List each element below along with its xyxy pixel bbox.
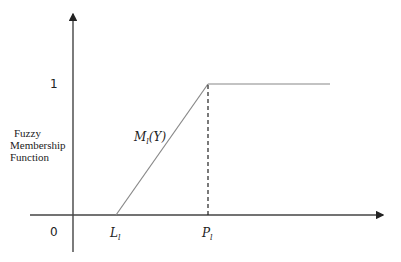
rising-edge bbox=[116, 84, 208, 215]
y-axis-title: Fuzzy Membership Function bbox=[5, 127, 66, 163]
y-axis-title-line-3: Function bbox=[5, 151, 66, 163]
tick-P-sub: l bbox=[210, 233, 213, 242]
curve-label-name: M bbox=[134, 130, 146, 144]
y-axis-title-line-2: Membership bbox=[5, 139, 66, 151]
tick-P-name: P bbox=[202, 226, 210, 240]
y-axis-title-line-1: Fuzzy bbox=[5, 127, 66, 139]
curve-label-arg: (Y) bbox=[149, 130, 166, 144]
origin-label: 0 bbox=[50, 225, 58, 239]
tick-L-sub: l bbox=[118, 233, 121, 242]
membership-function-diagram: 1 0 Fuzzy Membership Function Ll Pl Ml(Y… bbox=[0, 0, 401, 262]
tick-label-L: Ll bbox=[110, 226, 121, 242]
tick-label-one: 1 bbox=[50, 77, 58, 91]
curve-label: Ml(Y) bbox=[134, 130, 166, 146]
tick-L-name: L bbox=[110, 226, 118, 240]
tick-label-P: Pl bbox=[202, 226, 213, 242]
